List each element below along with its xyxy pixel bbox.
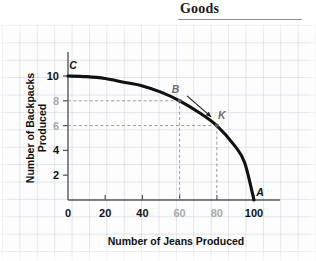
ppf-curve — [68, 76, 254, 200]
page-title: Goods — [180, 1, 219, 17]
x-tick-label: 100 — [245, 207, 263, 219]
point-label-c: C — [69, 59, 77, 71]
y-tick-label: 6 — [53, 120, 59, 132]
point-label-b: B — [172, 83, 180, 95]
y-tick-label: 10 — [47, 70, 59, 82]
ppf-plot: 246810020406080100CBKANumber of Jeans Pr… — [0, 24, 316, 261]
x-tick-label: 0 — [65, 207, 71, 219]
y-axis-title-line-2: Produced — [36, 104, 48, 152]
x-tick-label: 80 — [211, 207, 223, 219]
y-axis-title-line-1: Number of Backpacks — [24, 73, 36, 183]
y-tick-label: 2 — [53, 169, 59, 181]
data-point-k — [215, 124, 219, 128]
page-header: Goods — [0, 0, 316, 24]
x-tick-label: 40 — [136, 207, 148, 219]
x-tick-label: 60 — [173, 207, 185, 219]
point-label-k: K — [218, 109, 227, 121]
header-divider — [178, 19, 302, 20]
ppf-chart-page: Goods 246810020406080100CBKANumber of Je… — [0, 0, 316, 261]
point-label-a: A — [255, 186, 264, 198]
data-point-b — [178, 99, 182, 103]
x-axis-title: Number of Jeans Produced — [108, 235, 245, 247]
x-tick-label: 20 — [99, 207, 111, 219]
y-axis-title: Number of BackpacksProduced — [24, 73, 48, 183]
y-tick-label: 8 — [53, 95, 59, 107]
y-tick-label: 4 — [53, 144, 60, 156]
